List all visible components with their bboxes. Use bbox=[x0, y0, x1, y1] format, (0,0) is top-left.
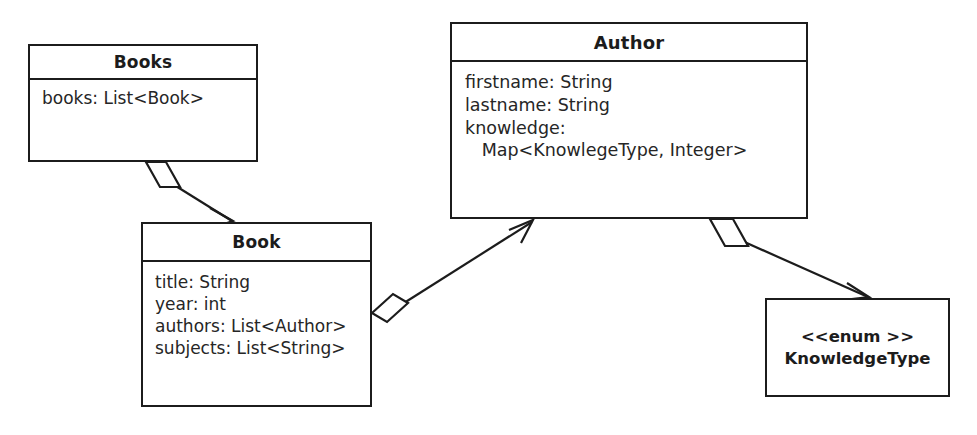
aggregation-diamond-author bbox=[710, 219, 748, 246]
uml-class-diagram: Books books: List<Book> Author firstname… bbox=[0, 0, 977, 435]
class-box-books[interactable]: Books books: List<Book> bbox=[28, 44, 258, 162]
aggregation-diamond-book bbox=[372, 294, 408, 322]
relationship-book-to-author bbox=[372, 220, 533, 322]
class-attributes-book: title: String year: int authors: List<Au… bbox=[143, 262, 370, 359]
class-box-book[interactable]: Book title: String year: int authors: Li… bbox=[141, 222, 372, 407]
class-attributes-books: books: List<Book> bbox=[30, 80, 256, 109]
connector-line-author-to-knowledgetype bbox=[740, 240, 868, 297]
class-name-knowledgetype: KnowledgeType bbox=[785, 348, 931, 370]
class-name-book: Book bbox=[143, 224, 370, 262]
relationship-books-to-book bbox=[146, 162, 233, 227]
aggregation-diamond-books bbox=[146, 162, 180, 187]
enum-stereotype: <<enum >> bbox=[801, 326, 914, 348]
attribute-row: title: String bbox=[155, 271, 370, 293]
attribute-row: subjects: List<String> bbox=[155, 337, 370, 359]
attribute-row: lastname: String bbox=[465, 94, 806, 117]
class-box-knowledgetype[interactable]: <<enum >> KnowledgeType bbox=[765, 298, 950, 397]
enum-label-stack: <<enum >> KnowledgeType bbox=[767, 300, 948, 395]
class-name-books: Books bbox=[30, 46, 256, 80]
class-name-author: Author bbox=[452, 24, 806, 62]
class-box-author[interactable]: Author firstname: String lastname: Strin… bbox=[450, 22, 808, 219]
attribute-row: authors: List<Author> bbox=[155, 315, 370, 337]
connector-line-book-to-author bbox=[404, 222, 532, 303]
attribute-row: books: List<Book> bbox=[42, 87, 256, 109]
relationship-author-to-knowledgetype bbox=[710, 219, 869, 300]
attribute-row: knowledge: bbox=[465, 117, 806, 140]
attribute-row: year: int bbox=[155, 293, 370, 315]
class-attributes-author: firstname: String lastname: String knowl… bbox=[452, 62, 806, 162]
attribute-row: firstname: String bbox=[465, 71, 806, 94]
attribute-row: Map<KnowlegeType, Integer> bbox=[465, 139, 806, 162]
